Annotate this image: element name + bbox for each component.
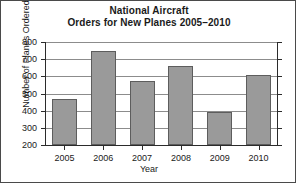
x-tick-label-2006: 2006 bbox=[83, 153, 123, 163]
x-tick-label-2009: 2009 bbox=[200, 153, 240, 163]
gridline bbox=[45, 76, 278, 77]
bar-2010 bbox=[246, 75, 271, 145]
gridline bbox=[45, 128, 278, 129]
gridline bbox=[45, 111, 278, 112]
y-tick-label: 800 bbox=[13, 38, 37, 47]
bar-2009 bbox=[207, 112, 232, 145]
x-axis-line bbox=[45, 145, 278, 146]
y-axis-line bbox=[45, 42, 46, 146]
y-tick-label: 300 bbox=[13, 124, 37, 133]
bar-2005 bbox=[52, 99, 77, 145]
x-tick-mark bbox=[103, 146, 104, 150]
x-tick-mark bbox=[259, 146, 260, 150]
chart-title-line-1: National Aircraft bbox=[1, 5, 296, 17]
y-tick-mark bbox=[41, 76, 45, 77]
x-tick-label-2008: 2008 bbox=[161, 153, 201, 163]
x-tick-label-2007: 2007 bbox=[122, 153, 162, 163]
bar-2007 bbox=[130, 81, 155, 145]
y-tick-mark-right bbox=[278, 59, 282, 60]
bar-2008 bbox=[168, 66, 193, 145]
y-tick-label: 400 bbox=[13, 107, 37, 116]
y-tick-mark bbox=[41, 145, 45, 146]
x-tick-mark bbox=[220, 146, 221, 150]
gridline bbox=[45, 94, 278, 95]
y-tick-mark bbox=[41, 94, 45, 95]
y-tick-label: 700 bbox=[13, 55, 37, 64]
y-tick-mark bbox=[41, 128, 45, 129]
x-tick-label-2005: 2005 bbox=[44, 153, 84, 163]
y-tick-mark bbox=[41, 59, 45, 60]
x-axis-label: Year bbox=[1, 164, 296, 174]
y-tick-label: 200 bbox=[13, 141, 37, 150]
y-tick-mark-right bbox=[278, 128, 282, 129]
chart-title: National Aircraft Orders for New Planes … bbox=[1, 5, 296, 29]
gridline bbox=[45, 42, 278, 43]
gridline bbox=[45, 59, 278, 60]
y-tick-mark bbox=[41, 111, 45, 112]
y-tick-mark bbox=[41, 42, 45, 43]
x-tick-mark bbox=[181, 146, 182, 150]
chart-figure: National Aircraft Orders for New Planes … bbox=[0, 0, 296, 183]
x-tick-label-2010: 2010 bbox=[239, 153, 279, 163]
y-tick-label: 500 bbox=[13, 90, 37, 99]
x-tick-mark bbox=[64, 146, 65, 150]
y-tick-mark-right bbox=[278, 94, 282, 95]
y-tick-mark-right bbox=[278, 145, 282, 146]
y-tick-label: 600 bbox=[13, 72, 37, 81]
plot-area bbox=[45, 42, 278, 145]
y-tick-mark-right bbox=[278, 42, 282, 43]
y-tick-mark-right bbox=[278, 76, 282, 77]
chart-title-line-2: Orders for New Planes 2005–2010 bbox=[1, 17, 296, 29]
x-tick-mark bbox=[142, 146, 143, 150]
y-tick-mark-right bbox=[278, 111, 282, 112]
bar-2006 bbox=[91, 51, 116, 145]
